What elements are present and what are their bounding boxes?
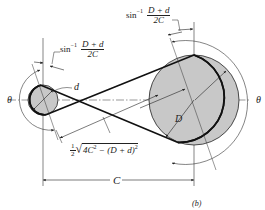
left-angle-formula: sin−1 D + d2C: [60, 40, 104, 59]
small-diameter-label: d: [74, 82, 79, 92]
left-angle-dim: [34, 62, 43, 63]
right-angle-dim-2: [178, 29, 193, 30]
crossed-belt-diagram: [0, 0, 265, 210]
span-leader: [103, 117, 110, 133]
right-angle-leader: [172, 20, 180, 31]
span-dim-line: [60, 95, 158, 138]
theta-left-label: θ: [7, 95, 12, 105]
theta-right-label: θ: [256, 95, 261, 105]
left-angle-dim-2: [50, 66, 64, 70]
center-distance-label: C: [113, 175, 120, 186]
right-angle-dim: [168, 32, 182, 35]
figure-label: (b): [192, 200, 201, 208]
span-length-formula: 12√4C2 − (D + d)2: [70, 143, 138, 158]
left-angle-leader: [52, 52, 60, 64]
large-diameter-label: D: [175, 114, 182, 124]
right-angle-formula: sin−1 D + d2C: [126, 6, 170, 25]
